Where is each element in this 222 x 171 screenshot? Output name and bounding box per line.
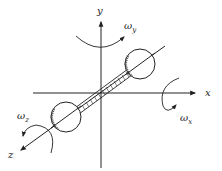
omega-y-rotation-arrow	[76, 36, 124, 47]
upper-sphere	[125, 49, 155, 79]
dumbbell-rotation-diagram: y x z	[0, 0, 222, 171]
lower-sphere	[51, 102, 81, 132]
y-axis-label: y	[96, 5, 103, 16]
z-axis-label: z	[7, 149, 14, 160]
x-axis-label: x	[205, 87, 211, 98]
omega-z-label: ωz	[17, 110, 29, 124]
omega-z-rotation-arrow	[23, 125, 53, 153]
omega-x-label: ωx	[180, 112, 192, 126]
omega-y-label: ωy	[124, 20, 137, 34]
omega-x-rotation-arrow	[162, 78, 179, 110]
